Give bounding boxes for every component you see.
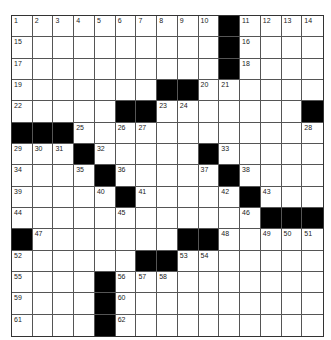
crossword-cell[interactable]: 55 [12,272,33,293]
crossword-cell[interactable]: 17 [12,59,33,80]
crossword-cell[interactable]: 7 [136,16,157,37]
crossword-cell[interactable] [178,187,199,208]
crossword-cell[interactable] [95,37,116,58]
crossword-cell[interactable] [261,251,282,272]
crossword-cell[interactable] [53,187,74,208]
crossword-cell[interactable]: 5 [95,16,116,37]
crossword-cell[interactable]: 49 [261,229,282,250]
crossword-cell[interactable] [53,37,74,58]
crossword-cell[interactable] [282,144,303,165]
crossword-cell[interactable] [199,272,220,293]
crossword-cell[interactable] [74,59,95,80]
crossword-cell[interactable] [74,208,95,229]
crossword-cell[interactable] [116,251,137,272]
crossword-cell[interactable] [199,59,220,80]
crossword-cell[interactable] [74,80,95,101]
crossword-cell[interactable] [219,101,240,122]
crossword-cell[interactable]: 19 [12,80,33,101]
crossword-cell[interactable] [261,272,282,293]
crossword-cell[interactable]: 40 [95,187,116,208]
crossword-cell[interactable] [219,293,240,314]
crossword-cell[interactable] [74,229,95,250]
crossword-cell[interactable] [136,293,157,314]
crossword-cell[interactable] [33,101,54,122]
crossword-cell[interactable]: 15 [12,37,33,58]
crossword-cell[interactable] [240,144,261,165]
crossword-cell[interactable] [53,229,74,250]
crossword-cell[interactable]: 9 [178,16,199,37]
crossword-cell[interactable] [282,123,303,144]
crossword-cell[interactable] [178,59,199,80]
crossword-cell[interactable] [219,251,240,272]
crossword-cell[interactable] [282,59,303,80]
crossword-cell[interactable] [33,293,54,314]
crossword-cell[interactable]: 50 [282,229,303,250]
crossword-cell[interactable]: 30 [33,144,54,165]
crossword-cell[interactable]: 24 [178,101,199,122]
crossword-cell[interactable]: 54 [199,251,220,272]
crossword-cell[interactable]: 39 [12,187,33,208]
crossword-cell[interactable]: 2 [33,16,54,37]
crossword-cell[interactable] [74,293,95,314]
crossword-cell[interactable] [199,101,220,122]
crossword-cell[interactable]: 12 [261,16,282,37]
crossword-cell[interactable] [261,37,282,58]
crossword-cell[interactable] [302,293,323,314]
crossword-cell[interactable]: 32 [95,144,116,165]
crossword-cell[interactable]: 35 [74,165,95,186]
crossword-cell[interactable] [302,59,323,80]
crossword-cell[interactable] [157,123,178,144]
crossword-cell[interactable] [95,80,116,101]
crossword-cell[interactable]: 47 [33,229,54,250]
crossword-cell[interactable] [74,272,95,293]
crossword-cell[interactable] [178,37,199,58]
crossword-cell[interactable]: 59 [12,293,33,314]
crossword-cell[interactable] [261,59,282,80]
crossword-cell[interactable] [157,144,178,165]
crossword-cell[interactable] [282,293,303,314]
crossword-cell[interactable]: 18 [240,59,261,80]
crossword-cell[interactable]: 58 [157,272,178,293]
crossword-cell[interactable] [302,144,323,165]
crossword-cell[interactable] [261,101,282,122]
crossword-cell[interactable]: 14 [302,16,323,37]
crossword-cell[interactable]: 53 [178,251,199,272]
crossword-cell[interactable] [240,293,261,314]
crossword-cell[interactable] [136,315,157,336]
crossword-cell[interactable]: 60 [116,293,137,314]
crossword-cell[interactable]: 43 [261,187,282,208]
crossword-cell[interactable] [240,101,261,122]
crossword-cell[interactable]: 45 [116,208,137,229]
crossword-cell[interactable] [53,59,74,80]
crossword-cell[interactable] [261,144,282,165]
crossword-cell[interactable]: 37 [199,165,220,186]
crossword-cell[interactable] [282,251,303,272]
crossword-cell[interactable] [178,144,199,165]
crossword-cell[interactable] [282,187,303,208]
crossword-cell[interactable] [53,315,74,336]
crossword-cell[interactable] [302,272,323,293]
crossword-cell[interactable]: 42 [219,187,240,208]
crossword-cell[interactable] [116,229,137,250]
crossword-cell[interactable] [33,272,54,293]
crossword-cell[interactable] [157,293,178,314]
crossword-cell[interactable] [261,315,282,336]
crossword-cell[interactable] [33,315,54,336]
crossword-cell[interactable]: 25 [74,123,95,144]
crossword-cell[interactable] [261,123,282,144]
crossword-cell[interactable] [240,123,261,144]
crossword-cell[interactable] [136,165,157,186]
crossword-cell[interactable] [116,80,137,101]
crossword-cell[interactable] [240,315,261,336]
crossword-cell[interactable] [302,165,323,186]
crossword-cell[interactable] [178,293,199,314]
crossword-cell[interactable] [199,37,220,58]
crossword-cell[interactable]: 29 [12,144,33,165]
crossword-cell[interactable] [157,315,178,336]
crossword-cell[interactable] [282,101,303,122]
crossword-cell[interactable] [33,208,54,229]
crossword-cell[interactable]: 1 [12,16,33,37]
crossword-cell[interactable] [199,293,220,314]
crossword-cell[interactable] [95,208,116,229]
crossword-cell[interactable] [261,165,282,186]
